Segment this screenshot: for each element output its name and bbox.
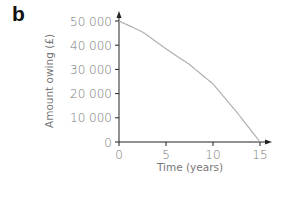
y-axis-title: Amount owing (£) xyxy=(43,34,55,128)
x-tick-label: 5 xyxy=(162,148,170,162)
y-tick-label: 50 000 xyxy=(70,15,112,29)
y-tick-label: 10 000 xyxy=(70,111,112,125)
chart: 010 00020 00030 00040 00050 000 051015 T… xyxy=(0,0,288,207)
data-line xyxy=(119,21,260,142)
x-axis-title: Time (years) xyxy=(156,161,223,173)
x-tick-label: 0 xyxy=(115,148,123,162)
x-tick-label: 15 xyxy=(252,148,267,162)
y-tick-label: 0 xyxy=(104,136,112,150)
y-axis-arrow-icon xyxy=(117,11,122,18)
x-ticks: 051015 xyxy=(115,142,267,162)
y-tick-label: 20 000 xyxy=(70,87,112,101)
y-tick-label: 40 000 xyxy=(70,39,112,53)
x-tick-label: 10 xyxy=(205,148,220,162)
x-axis-arrow-icon xyxy=(265,140,272,145)
y-ticks: 010 00020 00030 00040 00050 000 xyxy=(70,15,119,150)
y-tick-label: 30 000 xyxy=(70,63,112,77)
